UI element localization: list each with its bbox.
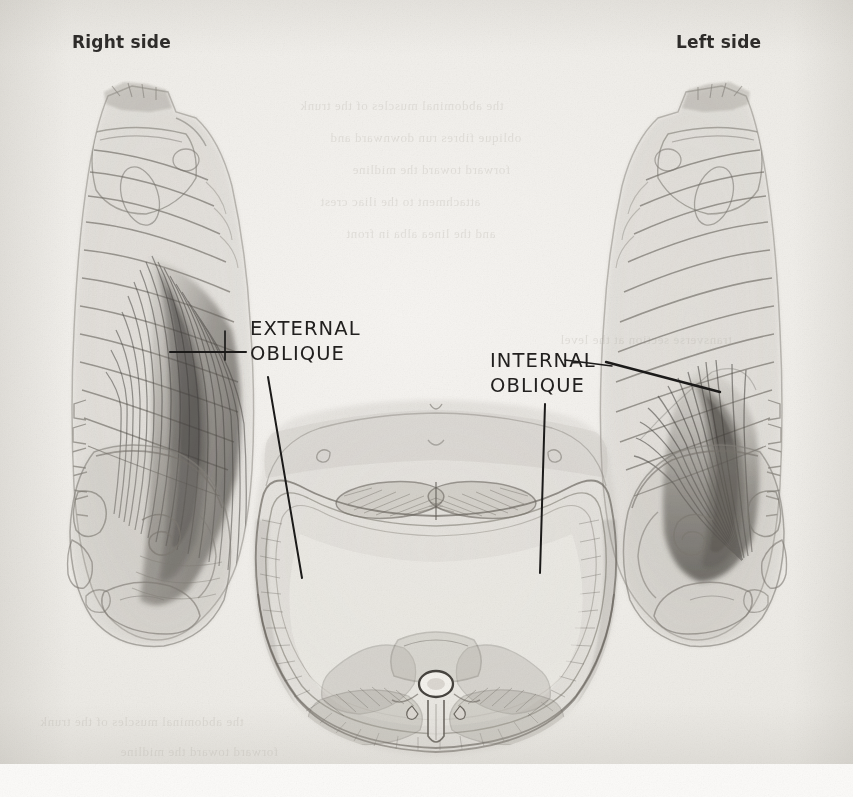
label-right-side: Right side xyxy=(72,32,171,52)
label-internal-oblique-line2: OBLIQUE xyxy=(490,373,596,398)
label-left-side: Left side xyxy=(676,32,761,52)
label-external-oblique: EXTERNAL OBLIQUE xyxy=(250,316,361,366)
paper-bottom-margin xyxy=(0,764,853,797)
label-external-oblique-line1: EXTERNAL xyxy=(250,316,361,341)
label-external-oblique-line2: OBLIQUE xyxy=(250,341,361,366)
label-internal-oblique-line1: INTERNAL xyxy=(490,348,596,373)
label-internal-oblique: INTERNAL OBLIQUE xyxy=(490,348,596,398)
anatomy-plate-page: the abdominal muscles of the trunk obliq… xyxy=(0,0,853,797)
paper-background xyxy=(0,0,853,764)
